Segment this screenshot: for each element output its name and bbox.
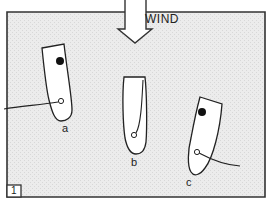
boat-b (123, 77, 147, 154)
crew-dot-icon (198, 108, 206, 116)
boat-c-label: c (186, 176, 192, 188)
diagram-canvas (0, 0, 274, 212)
wind-label: WIND (145, 12, 179, 26)
mast-icon (131, 132, 136, 137)
mast-icon (194, 149, 199, 154)
crew-dot-icon (56, 57, 64, 65)
mast-icon (58, 98, 63, 103)
boat-b-label: b (131, 156, 137, 168)
figure-number: 1 (11, 185, 17, 196)
boat-a-label: a (62, 122, 68, 134)
